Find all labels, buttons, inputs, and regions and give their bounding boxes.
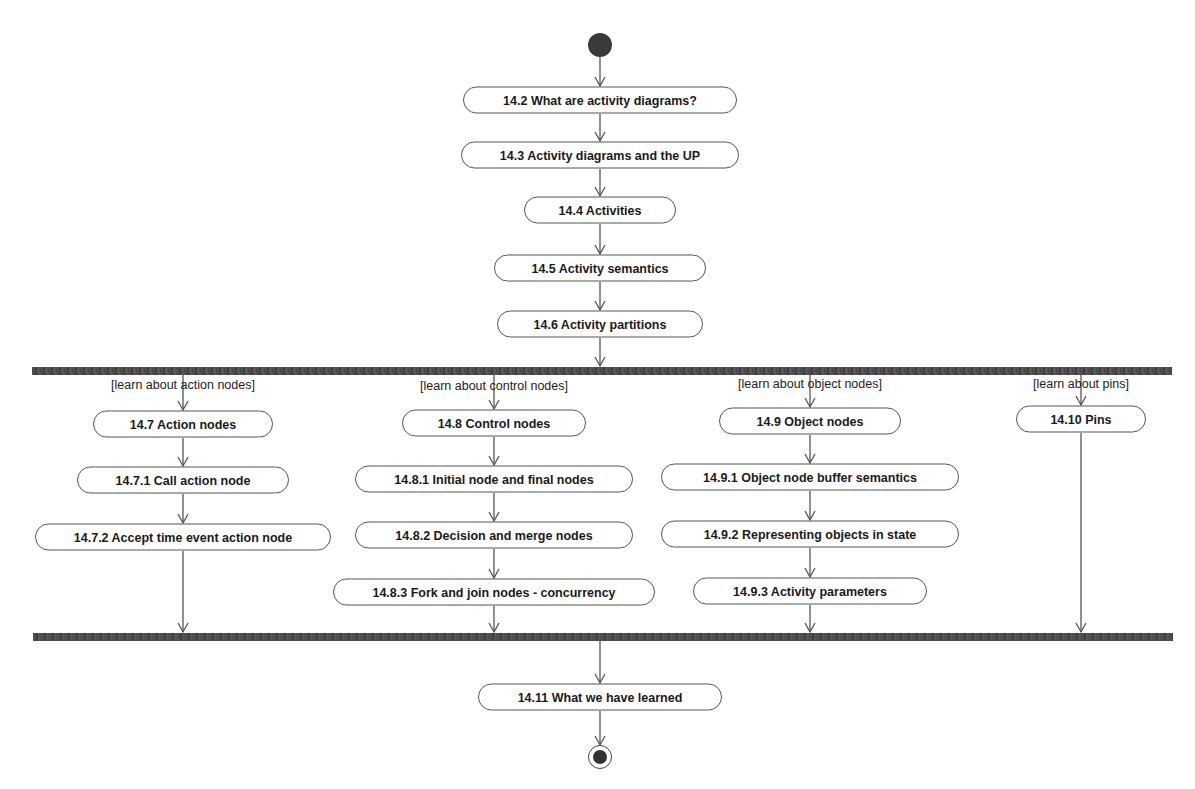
activity-14-8-3: 14.8.3 Fork and join nodes - concurrency (333, 579, 655, 606)
activity-14-5: 14.5 Activity semantics (494, 255, 706, 282)
arrowhead-icon (1076, 396, 1086, 405)
arrowhead-icon (595, 77, 605, 86)
arrowhead-icon (1076, 623, 1086, 632)
activity-14-8-2: 14.8.2 Decision and merge nodes (355, 522, 633, 549)
arrowhead-icon (595, 245, 605, 254)
arrowhead-icon (178, 623, 188, 632)
initial-node (588, 33, 612, 57)
activity-14-9: 14.9 Object nodes (719, 408, 901, 435)
arrowhead-icon (805, 454, 815, 463)
activity-14-8: 14.8 Control nodes (402, 410, 586, 437)
arrowhead-icon (595, 357, 605, 366)
activity-14-9-3: 14.9.3 Activity parameters (693, 578, 927, 605)
activity-14-7: 14.7 Action nodes (93, 411, 273, 438)
activity-14-9-2: 14.9.2 Representing objects in state (661, 521, 959, 548)
arrowhead-icon (595, 132, 605, 141)
fork-bar (32, 367, 1172, 375)
activity-14-8-1: 14.8.1 Initial node and final nodes (355, 466, 633, 493)
activity-14-10: 14.10 Pins (1016, 406, 1146, 433)
arrowhead-icon (178, 401, 188, 410)
arrowhead-icon (489, 569, 499, 578)
final-node (588, 745, 612, 769)
join-bar (33, 633, 1173, 641)
activity-14-3: 14.3 Activity diagrams and the UP (461, 142, 739, 169)
activity-14-9-1: 14.9.1 Object node buffer semantics (661, 464, 959, 491)
activity-14-4: 14.4 Activities (524, 197, 676, 224)
arrowhead-icon (805, 511, 815, 520)
guard-control-nodes: [learn about control nodes] (420, 379, 568, 393)
arrowhead-icon (595, 187, 605, 196)
activity-14-7-1: 14.7.1 Call action node (77, 467, 289, 494)
arrowhead-icon (595, 736, 605, 745)
arrowhead-icon (805, 398, 815, 407)
activity-14-11: 14.11 What we have learned (478, 684, 722, 711)
activity-diagram: 14.2 What are activity diagrams? 14.3 Ac… (0, 0, 1195, 789)
activity-14-6: 14.6 Activity partitions (497, 311, 703, 338)
guard-object-nodes: [learn about object nodes] (738, 377, 882, 391)
control-flow-edges (0, 0, 1195, 789)
arrowhead-icon (805, 623, 815, 632)
guard-action-nodes: [learn about action nodes] (111, 378, 255, 392)
arrowhead-icon (178, 514, 188, 523)
arrowhead-icon (489, 400, 499, 409)
activity-14-2: 14.2 What are activity diagrams? (463, 87, 737, 114)
arrowhead-icon (595, 674, 605, 683)
arrowhead-icon (805, 568, 815, 577)
activity-14-7-2: 14.7.2 Accept time event action node (35, 524, 331, 551)
guard-pins: [learn about pins] (1033, 377, 1129, 391)
arrowhead-icon (595, 301, 605, 310)
arrowhead-icon (489, 623, 499, 632)
arrowhead-icon (178, 457, 188, 466)
arrowhead-icon (489, 512, 499, 521)
arrowhead-icon (489, 456, 499, 465)
